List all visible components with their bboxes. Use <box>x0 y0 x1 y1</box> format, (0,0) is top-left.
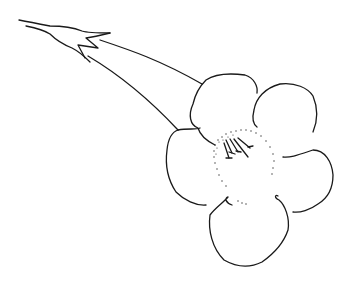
throat-dots <box>213 129 274 204</box>
calyx <box>19 20 110 62</box>
petals <box>166 74 333 266</box>
flower-drawing <box>0 0 348 285</box>
corolla-tube <box>88 40 202 130</box>
stamens <box>224 138 253 158</box>
flower-illustration <box>0 0 348 285</box>
